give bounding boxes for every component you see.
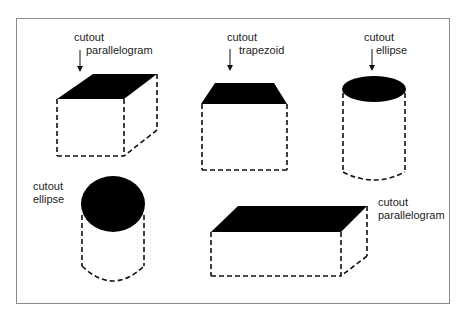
cylinder-tall-shape <box>342 49 406 180</box>
parallelogram-cutout <box>57 74 157 99</box>
label-cube-line1: cutout <box>74 31 104 44</box>
ellipse-cutout <box>342 76 406 102</box>
parallelogram-cutout <box>211 206 367 232</box>
label-flat-box-line2: parallelogram <box>378 209 445 222</box>
label-cylinder-short-line2: ellipse <box>33 193 64 206</box>
label-cylinder-tall-line2: ellipse <box>376 44 407 57</box>
label-trapezoid-line1: cutout <box>227 31 257 44</box>
cylinder-short-shape <box>81 176 145 281</box>
label-trapezoid-line2: trapezoid <box>239 44 284 57</box>
ellipse-cutout <box>81 176 145 232</box>
label-flat-box-line1: cutout <box>378 196 408 209</box>
cube-shape <box>57 50 157 156</box>
label-cube-line2: parallelogram <box>86 44 153 57</box>
trapezoid-box-shape <box>201 49 287 170</box>
flat-box-shape <box>211 206 367 276</box>
label-cylinder-tall-line1: cutout <box>364 31 394 44</box>
label-cylinder-short-line1: cutout <box>33 180 63 193</box>
trapezoid-cutout <box>201 83 287 104</box>
